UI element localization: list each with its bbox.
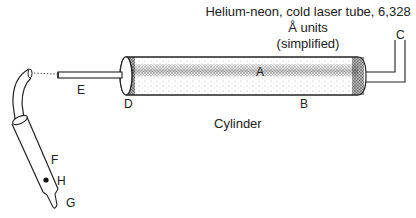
caption-cylinder: Cylinder [214,118,262,130]
title-line-1: Helium-neon, cold laser tube, 6,328 Å un… [200,4,416,36]
laser-tube [126,57,358,95]
label-f: F [51,154,58,166]
label-d: D [124,98,133,110]
label-g: G [66,197,75,209]
laser-diagram: Helium-neon, cold laser tube, 6,328 Å un… [0,0,416,218]
label-c: C [396,29,405,41]
label-h: H [57,175,66,187]
label-a: A [256,66,264,78]
label-e: E [77,84,85,96]
diagram-title: Helium-neon, cold laser tube, 6,328 Å un… [200,4,416,52]
title-line-2: (simplified) [200,36,416,52]
fiber-cable [13,69,32,119]
laser-beam [31,73,57,74]
label-b: B [300,98,308,110]
handpiece-button [43,177,48,182]
rod-left [58,72,122,78]
end-cap-right [352,57,366,95]
